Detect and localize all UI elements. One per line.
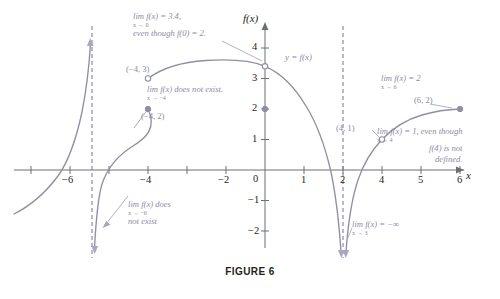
annotation-limit-at-4-line2: f(4) is not [377, 143, 463, 154]
annotation-limit-at-minus4-sub: x → −4 [147, 94, 223, 102]
annotation-limit-at-3-line1: lim f(x) = −∞ [352, 219, 399, 229]
point-label-minus4-3: (−4, 3) [126, 65, 149, 74]
x-tick-label-6: 6 [457, 174, 462, 185]
point-label-minus4-2: (−4, 2) [141, 112, 164, 121]
annotation-limit-at-6-sub: x → 6 [381, 83, 420, 91]
x-axis [14, 167, 464, 174]
point-0-3p4-marker [262, 64, 267, 69]
y-axis-label: f(x) [243, 13, 258, 25]
leader-arrow-limit-at-minus6 [103, 221, 111, 228]
annotation-limit-at-4: lim f(x) = 1, even though x → 4 f(4) is … [377, 126, 463, 165]
annotation-limit-at-minus6-sub: x → −6 [128, 209, 171, 217]
annotation-limit-at-4-sub: x → 4 [377, 136, 463, 144]
origin-label: 0 [253, 173, 258, 184]
y-tick-label-minus2: −2 [248, 225, 259, 236]
point-6-2-marker [457, 106, 462, 111]
y-tick-label-1: 1 [252, 133, 257, 144]
leader-line-limit-at-6 [430, 104, 452, 108]
leader-line-limit-at-minus6 [106, 196, 128, 224]
y-tick-label-2: 2 [252, 102, 257, 113]
y-tick-label-4: 4 [252, 41, 257, 52]
annotation-limit-at-minus4-line1: lim f(x) does not exist. [147, 84, 223, 94]
annotation-limit-at-6: lim f(x) = 2 x → 6 [381, 73, 420, 90]
figure-caption: FIGURE 6 [0, 266, 500, 277]
annotation-limit-at-minus6-line1: lim f(x) does [128, 199, 171, 209]
annotation-limit-at-6-line1: lim f(x) = 2 [381, 73, 420, 83]
annotation-limit-at-minus6: lim f(x) does x → −6 not exist [128, 199, 171, 227]
point-label-4-1: (4, 1) [336, 124, 355, 133]
y-axis [262, 22, 269, 248]
x-tick-label-1: 1 [301, 174, 306, 185]
curve-branch-left-of-minus6 [14, 44, 91, 214]
annotation-limit-at-minus6-line2: not exist [128, 216, 157, 226]
annotation-limit-at-0-line1: lim f(x) = 3.4, [133, 11, 181, 21]
annotation-limit-at-3: lim f(x) = −∞ x → 3 [352, 219, 399, 236]
point-minus4-3-marker [145, 76, 150, 81]
point-label-6-2: (6, 2) [414, 96, 433, 105]
annotation-limit-at-3-sub: x → 3 [352, 229, 399, 237]
x-tick-label-minus6: −6 [62, 174, 73, 185]
figure-container: f(x) x y = f(x) −6 −4 −2 1 2 4 5 6 4 3 2… [0, 0, 500, 299]
x-axis-label: x [466, 170, 471, 182]
annotation-limit-at-minus4: lim f(x) does not exist. x → −4 [147, 84, 223, 101]
x-tick-label-2: 2 [340, 174, 345, 185]
annotation-limit-at-0-line2: even though f(0) = 2. [133, 28, 206, 38]
annotation-limit-at-4-line3: defined. [377, 154, 463, 165]
curve-arrow-up-left-of-minus6 [87, 38, 94, 46]
x-tick-label-5: 5 [418, 174, 423, 185]
point-0-2-marker [262, 106, 267, 111]
annotation-limit-at-0: lim f(x) = 3.4, x → 0 even though f(0) =… [133, 11, 206, 39]
curve-equation-label: y = f(x) [285, 53, 312, 62]
x-tick-label-4: 4 [379, 174, 384, 185]
x-tick-label-minus4: −4 [140, 174, 151, 185]
x-tick-label-minus2: −2 [218, 174, 229, 185]
y-tick-label-minus1: −1 [248, 194, 259, 205]
annotation-limit-at-4-line1: lim f(x) = 1, even though [377, 126, 463, 136]
annotation-limit-at-0-sub: x → 0 [133, 21, 206, 29]
y-tick-label-3: 3 [252, 72, 257, 83]
